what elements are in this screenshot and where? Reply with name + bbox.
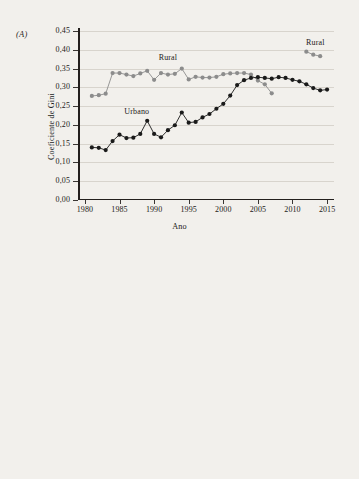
data-point <box>283 76 287 80</box>
data-point <box>304 82 308 86</box>
x-axis-tick <box>189 200 190 204</box>
y-axis-tick-label: 0,05 <box>36 176 70 185</box>
data-point <box>277 75 281 79</box>
x-axis-tick-label: 1995 <box>180 205 196 214</box>
x-axis-tick <box>258 200 259 204</box>
data-point <box>256 75 260 79</box>
data-point <box>200 75 204 79</box>
data-point <box>270 91 274 95</box>
x-axis-tick-label: 2015 <box>319 205 335 214</box>
data-point <box>194 75 198 79</box>
y-axis-tick <box>73 200 78 201</box>
data-point <box>117 133 121 137</box>
x-axis-tick-label: 1985 <box>111 205 127 214</box>
data-point <box>311 86 315 90</box>
y-axis-tick-label: 0,30 <box>36 82 70 91</box>
y-axis-tick-label: 0,45 <box>36 26 70 35</box>
panel-a-tag: (A) <box>16 29 27 39</box>
panel-a-plot-area: 0,000,050,100,150,200,250,300,350,400,45… <box>78 31 334 200</box>
data-point <box>297 79 301 83</box>
y-axis-tick-label: 0,15 <box>36 139 70 148</box>
y-axis-tick-label: 0,40 <box>36 45 70 54</box>
data-point <box>318 88 322 92</box>
data-point <box>304 50 308 54</box>
data-point <box>152 132 156 136</box>
x-axis-tick-label: 1990 <box>146 205 162 214</box>
data-point <box>97 146 101 150</box>
series-annotation-rural: Rural <box>159 53 178 62</box>
data-point <box>194 120 198 124</box>
data-point <box>138 71 142 75</box>
data-point <box>104 148 108 152</box>
data-point <box>270 77 274 81</box>
series-annotation-rural: Rural <box>306 38 325 47</box>
data-point <box>90 94 94 98</box>
series-rural <box>90 50 323 99</box>
data-point <box>180 110 184 114</box>
data-point <box>242 78 246 82</box>
x-axis-tick <box>223 200 224 204</box>
data-point <box>145 119 149 123</box>
data-point <box>131 136 135 140</box>
data-point <box>166 128 170 132</box>
x-axis-tick <box>85 200 86 204</box>
data-point <box>124 72 128 76</box>
data-point <box>311 53 315 57</box>
x-axis-tick <box>154 200 155 204</box>
data-point <box>200 115 204 119</box>
data-point <box>235 71 239 75</box>
data-point <box>97 93 101 97</box>
data-point <box>145 69 149 73</box>
x-axis-tick-label: 2000 <box>215 205 231 214</box>
data-point <box>159 135 163 139</box>
data-point <box>138 132 142 136</box>
data-point <box>173 72 177 76</box>
data-point <box>110 71 114 75</box>
series-annotation-urbano: Urbano <box>124 107 149 116</box>
x-axis-tick-label: 2005 <box>250 205 266 214</box>
data-point <box>228 71 232 75</box>
data-point <box>131 74 135 78</box>
data-point <box>159 71 163 75</box>
data-point <box>318 54 322 58</box>
data-point <box>117 71 121 75</box>
data-point <box>207 75 211 79</box>
data-point <box>290 78 294 82</box>
data-point <box>207 112 211 116</box>
data-point <box>110 139 114 143</box>
data-point <box>263 82 267 86</box>
data-point <box>104 92 108 96</box>
data-point <box>187 121 191 125</box>
panel-a-x-axis-label: Ano <box>0 222 359 231</box>
data-point <box>228 93 232 97</box>
x-axis-tick-label: 2010 <box>284 205 300 214</box>
y-axis-tick-label: 0,20 <box>36 120 70 129</box>
x-axis-tick <box>120 200 121 204</box>
data-point <box>263 76 267 80</box>
x-axis-tick-label: 1980 <box>77 205 93 214</box>
data-point <box>214 75 218 79</box>
y-axis-tick-label: 0,10 <box>36 157 70 166</box>
y-axis-tick-label: 0,25 <box>36 101 70 110</box>
data-point <box>325 87 329 91</box>
data-point <box>235 83 239 87</box>
y-axis-tick-label: 0,35 <box>36 64 70 73</box>
data-point <box>221 72 225 76</box>
data-point <box>242 71 246 75</box>
x-axis-tick <box>292 200 293 204</box>
data-point <box>180 66 184 70</box>
data-point <box>214 107 218 111</box>
data-point <box>152 78 156 82</box>
data-point <box>124 136 128 140</box>
chart-panel-b: (B) Coeficiente de Gini 0,000,100,200,30… <box>0 240 359 479</box>
data-point <box>221 102 225 106</box>
data-point <box>187 77 191 81</box>
data-point <box>249 76 253 80</box>
data-point <box>90 145 94 149</box>
data-point <box>166 72 170 76</box>
series-layer <box>78 31 334 200</box>
chart-panel-a: (A) Coeficiente de Gini Ano 0,000,050,10… <box>0 0 359 240</box>
data-point <box>173 123 177 127</box>
x-axis-tick <box>327 200 328 204</box>
y-axis-tick-label: 0,00 <box>36 195 70 204</box>
